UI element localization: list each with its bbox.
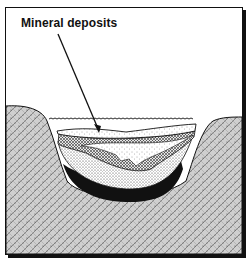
label-leader-line — [58, 34, 99, 131]
mineral-deposits-label: Mineral deposits — [21, 16, 117, 30]
diagram-frame — [5, 7, 243, 255]
cross-section-illustration — [6, 8, 242, 254]
water-surface — [49, 118, 193, 119]
